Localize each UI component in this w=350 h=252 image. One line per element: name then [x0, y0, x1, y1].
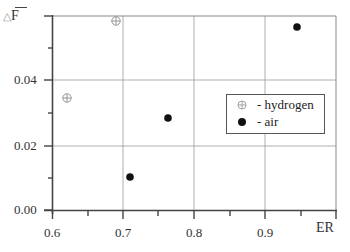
delta-symbol: △: [3, 10, 11, 22]
x-tick-label: 0.7: [115, 225, 131, 241]
y-tick-label: 0.00: [14, 202, 37, 218]
circle-plus-icon: [235, 99, 249, 111]
x-tick-label: 0.6: [44, 225, 60, 241]
legend-label: - hydrogen: [257, 97, 314, 113]
air-point: [164, 114, 172, 122]
x-ticks: [53, 210, 337, 219]
x-axis-label: ER: [316, 220, 334, 236]
scatter-chart: 0.00 0.02 0.04 0.6 0.7 0.8 0.9 △F ER - h…: [0, 0, 350, 252]
y-axis-label: △F: [3, 8, 19, 24]
legend-item-air: - air: [235, 114, 278, 130]
y-tick-label: 0.02: [14, 138, 37, 154]
y-ticks: [44, 16, 52, 210]
hydrogen-point: [63, 94, 71, 102]
legend-item-hydrogen: - hydrogen: [235, 97, 314, 113]
legend-label: - air: [257, 114, 278, 130]
legend: - hydrogen - air: [226, 94, 325, 134]
hydrogen-point: [112, 17, 120, 25]
overbar: [15, 7, 27, 8]
y-axis-letter: F: [11, 8, 19, 23]
filled-circle-icon: [235, 116, 249, 128]
x-tick-label: 0.9: [257, 225, 273, 241]
air-point: [293, 23, 301, 31]
series-hydrogen: [63, 17, 120, 102]
y-tick-label: 0.04: [14, 72, 37, 88]
x-tick-label: 0.8: [186, 225, 202, 241]
air-point: [126, 173, 134, 181]
